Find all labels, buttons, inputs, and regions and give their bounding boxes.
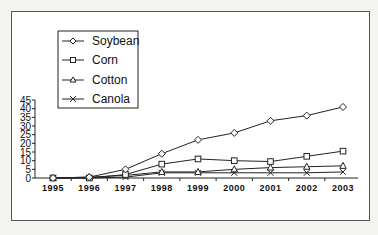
legend: Soybean Corn Cotton Canola	[58, 31, 139, 108]
diamond-icon	[303, 112, 310, 119]
legend-label: Corn	[92, 53, 118, 67]
y-axis: 051015202530354045	[20, 95, 35, 184]
square-icon	[340, 148, 346, 154]
x-axis: 199519961997199819992000200120022003	[35, 178, 358, 193]
line-chart: 051015202530354045 199519961997199819992…	[0, 0, 378, 235]
x-tick-label: 2002	[296, 183, 318, 193]
square-icon	[195, 156, 201, 162]
x-tick-label: 1995	[42, 183, 64, 193]
x-tick-label: 1996	[78, 183, 100, 193]
x-tick-label: 1999	[187, 183, 209, 193]
square-icon	[268, 159, 274, 165]
x-tick-label: 1997	[114, 183, 136, 193]
diamond-icon	[340, 103, 347, 110]
x-tick-label: 2000	[223, 183, 245, 193]
diamond-icon	[231, 129, 238, 136]
diamond-icon	[267, 117, 274, 124]
legend-label: Cotton	[92, 73, 127, 87]
diamond-icon	[158, 150, 165, 157]
series-layer	[50, 103, 347, 181]
legend-label: Canola	[92, 92, 130, 106]
square-icon	[159, 161, 165, 167]
x-tick-label: 2001	[259, 183, 281, 193]
triangle-icon	[340, 162, 346, 168]
x-tick-label: 2003	[332, 183, 354, 193]
square-icon	[71, 58, 76, 63]
legend-label: Soybean	[92, 34, 139, 48]
y-tick-label: 45	[20, 95, 32, 106]
square-icon	[304, 154, 310, 160]
x-tick-label: 1998	[151, 183, 173, 193]
diamond-icon	[195, 136, 202, 143]
square-icon	[231, 158, 237, 164]
